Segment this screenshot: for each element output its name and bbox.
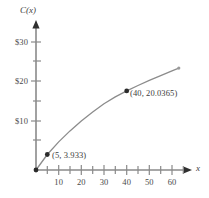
x-tick-label-10: 10 — [47, 177, 71, 187]
y-axis-arrowhead — [32, 20, 39, 29]
y-tick-label-30: $30 — [2, 37, 28, 47]
x-tick-label-20: 20 — [69, 177, 93, 187]
y-tick-label-10: $10 — [2, 116, 28, 126]
x-tick-label-30: 30 — [92, 177, 116, 187]
chart-figure: C(x) x $30 $20 $10 10 20 30 40 50 60 (5,… — [0, 0, 209, 198]
origin-marker — [34, 168, 39, 173]
point-a-marker — [45, 152, 50, 157]
y-axis-label: C(x) — [20, 5, 36, 15]
curve-end-marker — [177, 67, 180, 70]
point-b-marker — [124, 89, 129, 94]
x-tick-label-40: 40 — [115, 177, 139, 187]
x-axis-arrowhead — [184, 167, 193, 174]
point-b-annotation: (40, 20.0365) — [130, 88, 177, 98]
y-tick-label-20: $20 — [2, 76, 28, 86]
point-a-annotation: (5, 3.933) — [52, 150, 86, 160]
chart-canvas — [0, 0, 209, 198]
x-axis-label: x — [196, 163, 200, 173]
x-tick-label-60: 60 — [160, 177, 184, 187]
x-tick-label-50: 50 — [137, 177, 161, 187]
